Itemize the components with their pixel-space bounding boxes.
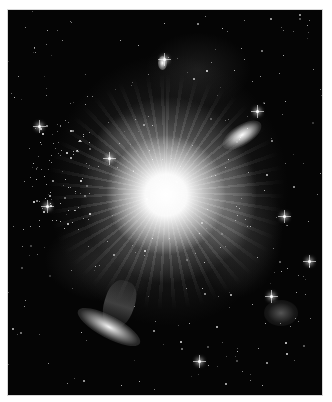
star — [256, 110, 259, 113]
star — [37, 167, 38, 168]
star — [51, 55, 52, 56]
star — [216, 326, 218, 328]
star — [38, 125, 41, 128]
star — [81, 332, 82, 333]
star — [58, 153, 59, 154]
star — [320, 173, 321, 174]
star — [70, 187, 71, 188]
star — [205, 16, 206, 17]
star — [260, 76, 261, 77]
star — [68, 122, 69, 123]
star — [21, 267, 23, 269]
star — [95, 266, 96, 267]
star — [36, 200, 38, 202]
faint-cloud-lower-right — [264, 300, 298, 326]
star — [49, 275, 51, 277]
star — [168, 57, 169, 58]
star — [222, 28, 223, 29]
star — [39, 220, 40, 221]
star — [276, 217, 277, 218]
star — [210, 118, 212, 120]
star — [163, 344, 164, 345]
star — [20, 332, 22, 334]
star — [226, 356, 227, 357]
star — [308, 221, 309, 222]
star — [73, 151, 74, 152]
star — [312, 122, 314, 124]
star — [144, 250, 146, 252]
star — [313, 69, 314, 70]
star — [134, 306, 135, 307]
star — [303, 276, 304, 277]
star — [270, 18, 272, 20]
star — [138, 131, 139, 132]
star — [198, 360, 201, 363]
star — [247, 226, 248, 227]
star — [30, 245, 32, 247]
star — [163, 58, 166, 61]
star — [83, 380, 85, 382]
star — [262, 385, 263, 386]
star — [78, 151, 79, 152]
star — [72, 222, 73, 223]
star — [207, 346, 209, 348]
star — [61, 150, 62, 151]
star — [78, 207, 79, 208]
star — [44, 176, 45, 177]
star — [271, 138, 272, 139]
star — [225, 120, 226, 121]
star — [32, 11, 33, 12]
star — [217, 366, 218, 367]
star — [180, 166, 181, 167]
star — [308, 260, 311, 263]
star — [247, 116, 248, 117]
star — [195, 253, 196, 254]
star — [64, 197, 66, 199]
star — [13, 226, 14, 227]
star — [298, 275, 299, 276]
star — [143, 124, 145, 126]
star — [237, 351, 238, 352]
star — [11, 93, 12, 94]
star — [258, 348, 259, 349]
star — [208, 365, 209, 366]
star — [144, 255, 145, 256]
star — [29, 255, 30, 256]
star — [211, 62, 212, 63]
star — [51, 155, 52, 156]
star — [89, 193, 90, 194]
star — [108, 157, 111, 160]
star — [286, 353, 288, 355]
star — [307, 25, 308, 26]
star — [308, 32, 309, 33]
star — [68, 187, 69, 188]
star — [86, 185, 88, 187]
star — [218, 296, 219, 297]
star — [274, 272, 275, 273]
star — [17, 334, 18, 335]
star — [220, 247, 221, 248]
astronomy-image: Deep-space nebula with bright central co… — [8, 10, 322, 395]
star — [89, 213, 91, 215]
star — [73, 102, 74, 103]
star — [199, 233, 200, 234]
star — [41, 144, 42, 145]
star — [46, 205, 49, 208]
star — [321, 95, 322, 96]
star — [43, 211, 45, 213]
star — [23, 229, 24, 230]
star — [60, 203, 61, 204]
star — [184, 206, 185, 207]
star — [32, 186, 33, 187]
star — [225, 167, 226, 168]
star — [38, 156, 39, 157]
star — [225, 383, 227, 385]
star — [299, 18, 301, 20]
star — [44, 76, 45, 77]
star — [139, 381, 140, 382]
star — [67, 223, 69, 225]
star — [75, 191, 76, 192]
star — [162, 159, 163, 160]
star — [176, 181, 178, 183]
star — [317, 194, 318, 195]
